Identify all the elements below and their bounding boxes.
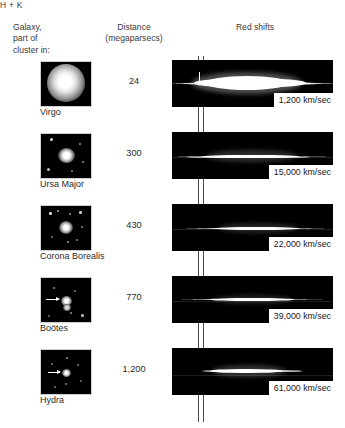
spectrum-panel: 61,000 km/sec — [172, 348, 333, 395]
hk-marker-label: H + K — [0, 0, 345, 10]
spectrum-panel: 39,000 km/sec — [172, 276, 333, 323]
column-header-redshifts: Red shifts — [190, 22, 320, 33]
galaxy-thumbnail — [40, 61, 92, 107]
velocity-label: 15,000 km/sec — [269, 165, 333, 179]
table-row: Ursa Major 300 15,000 km/sec — [0, 130, 345, 200]
galaxy-pointer-arrow-icon — [46, 299, 59, 300]
distance-value: 770 — [96, 292, 172, 302]
cluster-name: Corona Borealis — [40, 251, 150, 262]
cluster-name: Boötes — [40, 323, 150, 334]
distance-value: 300 — [96, 148, 172, 158]
cluster-name: Virgo — [40, 107, 150, 118]
column-header-distance: Distance (megaparsecs) — [96, 22, 172, 45]
hubble-redshift-figure: Galaxy, part of cluster in: Distance (me… — [0, 0, 345, 428]
column-header-galaxy: Galaxy, part of cluster in: — [13, 22, 50, 56]
hk-pointer-arrow-icon — [199, 72, 200, 83]
velocity-label: 39,000 km/sec — [269, 309, 333, 323]
cluster-name: Hydra — [40, 395, 150, 406]
galaxy-thumbnail — [40, 277, 92, 323]
galaxy-thumbnail — [40, 133, 92, 179]
cluster-name: Ursa Major — [40, 179, 150, 190]
table-row: Corona Borealis 430 22,000 km/sec — [0, 202, 345, 272]
table-row: Virgo 24 1,200 km/sec — [0, 58, 345, 128]
galaxy-pointer-arrow-icon — [48, 372, 60, 373]
table-row: Hydra 1,200 61,000 km/sec — [0, 346, 345, 416]
velocity-label: 22,000 km/sec — [269, 237, 333, 251]
spectrum-panel: 15,000 km/sec — [172, 132, 333, 179]
galaxy-thumbnail — [40, 349, 92, 395]
distance-value: 1,200 — [96, 364, 172, 374]
spectrum-panel: 22,000 km/sec — [172, 204, 333, 251]
table-row: Boötes 770 39,000 km/sec — [0, 274, 345, 344]
distance-value: 24 — [96, 76, 172, 86]
distance-value: 430 — [96, 220, 172, 230]
velocity-label: 1,200 km/sec — [274, 93, 333, 107]
velocity-label: 61,000 km/sec — [269, 381, 333, 395]
galaxy-thumbnail — [40, 205, 92, 251]
